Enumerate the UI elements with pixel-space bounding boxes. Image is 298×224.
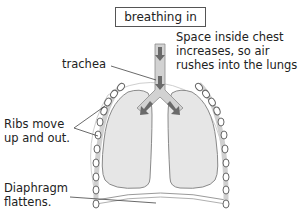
trachea-leader [111, 66, 156, 80]
diaphragm [96, 193, 226, 200]
lungs-diagram [0, 0, 298, 224]
ribs-leader-lower [74, 128, 98, 136]
